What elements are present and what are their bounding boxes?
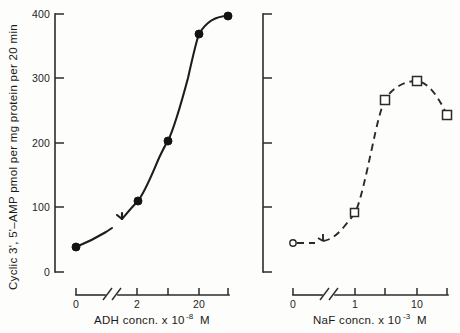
data-point xyxy=(72,243,80,251)
left-y-tick-labels: 400 300 200 100 0 xyxy=(32,8,50,278)
data-point xyxy=(381,96,390,105)
x-tick-label-10: 10 xyxy=(411,298,423,310)
right-x-axis-title-units: M xyxy=(417,314,427,326)
left-y-axis-title: Cyclic 3', 5'–AMP pmol per mg protein pe… xyxy=(7,24,19,290)
left-curve-break-arrow xyxy=(117,213,122,219)
right-x-tick-labels: 0 1 10 xyxy=(290,298,423,310)
data-point xyxy=(224,12,232,20)
x-tick-label-1: 1 xyxy=(352,298,358,310)
y-tick-label-200: 200 xyxy=(32,137,50,149)
left-adh-curve xyxy=(76,16,228,247)
left-x-axis-break-slash-2 xyxy=(112,288,121,300)
y-tick-label-300: 300 xyxy=(32,72,50,84)
data-point xyxy=(195,30,203,38)
data-point xyxy=(413,77,422,86)
y-tick-label-100: 100 xyxy=(32,201,50,213)
data-point xyxy=(351,209,359,217)
right-y-ticks xyxy=(263,14,272,272)
left-x-ticks xyxy=(76,288,228,295)
right-curve-break-arrow xyxy=(318,234,323,241)
left-x-axis-title-main: ADH concn. x 10 xyxy=(94,314,185,326)
x-tick-label-0: 0 xyxy=(73,298,79,310)
right-panel: 0 1 10 NaF concn. x 10 -3 M xyxy=(263,14,452,326)
right-x-axis-title: NaF concn. x 10 -3 M xyxy=(313,312,427,326)
left-x-axis-title-exponent: -8 xyxy=(186,312,194,321)
y-tick-label-400: 400 xyxy=(32,8,50,20)
left-x-axis xyxy=(76,288,229,300)
right-x-ticks xyxy=(293,288,447,295)
right-x-axis xyxy=(293,288,448,300)
left-x-axis-break-slash-1 xyxy=(103,288,112,300)
right-data-markers xyxy=(290,77,452,247)
figure-container: 400 300 200 100 0 Cyclic 3', 5'–AMP pmol… xyxy=(0,0,460,333)
left-y-ticks xyxy=(55,14,64,272)
left-panel: 400 300 200 100 0 Cyclic 3', 5'–AMP pmol… xyxy=(7,8,232,326)
right-x-axis-break-slash-1 xyxy=(320,288,329,300)
left-x-axis-title-units: M xyxy=(200,314,210,326)
right-x-axis-title-exponent: -3 xyxy=(403,312,411,321)
x-tick-label-2: 2 xyxy=(134,298,140,310)
data-point xyxy=(164,137,172,145)
data-point-baseline xyxy=(290,240,296,246)
data-point xyxy=(443,111,452,120)
right-x-axis-break-slash-2 xyxy=(329,288,338,300)
y-tick-label-0: 0 xyxy=(44,266,50,278)
right-naf-curve xyxy=(297,81,447,243)
left-data-markers xyxy=(72,12,232,251)
dose-response-figure: 400 300 200 100 0 Cyclic 3', 5'–AMP pmol… xyxy=(0,0,460,333)
right-x-axis-title-main: NaF concn. x 10 xyxy=(313,314,401,326)
left-x-tick-labels: 0 2 20 xyxy=(73,298,205,310)
x-tick-label-20: 20 xyxy=(193,298,205,310)
left-x-axis-title: ADH concn. x 10 -8 M xyxy=(94,312,210,326)
data-point xyxy=(134,197,142,205)
x-tick-label-0: 0 xyxy=(290,298,296,310)
